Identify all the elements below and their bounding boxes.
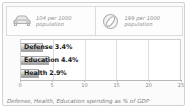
- x-tick-label: 5: [51, 82, 54, 88]
- stat-text-telephones: 199 per 1000 population: [125, 15, 183, 28]
- chart-caption: Defense, Health, Education spending as %…: [7, 98, 187, 104]
- x-axis-line: [20, 80, 181, 81]
- stats-panel: 104 per 1000 population 199 per 1000 pop…: [6, 6, 183, 36]
- stat-text-vehicles: 104 per 1000 population: [36, 15, 95, 28]
- plot-area: Defense 3.4% Education 4.4% Health 2.9%: [20, 39, 181, 81]
- bar-label-health: Health 2.9%: [24, 69, 67, 78]
- x-tick-label: 15: [113, 82, 119, 88]
- stat-cell-telephones[interactable]: 199 per 1000 population: [95, 7, 183, 35]
- bar-row[interactable]: Health 2.9%: [21, 69, 180, 78]
- bar-series: Defense 3.4% Education 4.4% Health 2.9%: [21, 40, 180, 80]
- bar-label-defense: Defense 3.4%: [24, 43, 72, 52]
- stat-card: 104 per 1000 population 199 per 1000 pop…: [2, 2, 185, 106]
- bar-label-education: Education 4.4%: [24, 56, 78, 65]
- x-tick-label: 10: [81, 82, 87, 88]
- x-tick-label: 0: [18, 82, 21, 88]
- car-icon: [11, 11, 33, 31]
- x-axis: 0 5 10 15 20 25: [20, 80, 181, 87]
- spending-bar-chart: Defense 3.4% Education 4.4% Health 2.9% …: [6, 39, 183, 87]
- x-tick-label: 20: [146, 82, 152, 88]
- bar-row[interactable]: Education 4.4%: [21, 56, 180, 65]
- bar-row[interactable]: Defense 3.4%: [21, 43, 180, 52]
- telephone-dial-icon: [100, 11, 122, 31]
- x-tick-label: 25: [178, 82, 184, 88]
- stat-cell-vehicles[interactable]: 104 per 1000 population: [7, 7, 95, 35]
